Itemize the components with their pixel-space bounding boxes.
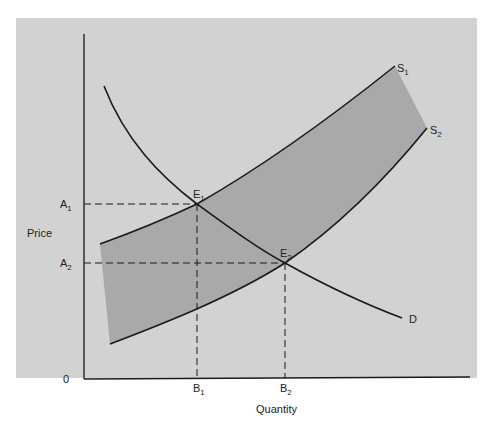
x-axis-title: Quantity: [256, 403, 297, 415]
x-axis: [84, 377, 470, 379]
y-axis-title: Price: [27, 227, 52, 239]
tick-a1: A1: [60, 198, 72, 213]
supply-shift-band: [100, 66, 427, 344]
label-s2: S2: [430, 124, 442, 139]
label-d: D: [409, 313, 417, 325]
tick-b1: B1: [193, 382, 205, 397]
tick-a2: A2: [60, 257, 72, 272]
supply-demand-chart: S1 S2 D E1 E2 A1 A2 B1 B2 Price Quantity…: [0, 0, 494, 440]
tick-b2: B2: [280, 382, 292, 397]
origin-label: 0: [63, 373, 69, 385]
label-e1: E1: [193, 188, 205, 203]
